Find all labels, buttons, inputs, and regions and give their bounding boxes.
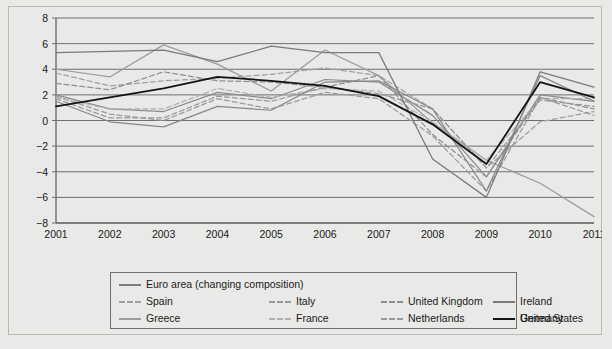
legend-swatch-dashed-line-icon [269,301,291,303]
legend-item[interactable]: Spain [117,296,267,307]
line-chart-svg: 86420−2−4−6−8 20012002200320042005200620… [8,6,602,255]
legend-item-label: Euro area (changing composition) [146,279,304,290]
x-tick-label: 2001 [44,228,68,240]
x-tick-label: 2005 [260,228,284,240]
legend-item-label: Greece [146,313,180,324]
y-tick-label: −6 [36,191,48,203]
plot-area: 86420−2−4−6−8 20012002200320042005200620… [8,6,602,255]
legend-swatch-solid-line-icon [493,301,515,303]
y-tick-label: 4 [42,63,48,75]
legend-item-label: France [296,313,329,324]
y-axis-tick-labels: 86420−2−4−6−8 [36,12,48,229]
legend-item[interactable]: Italy [267,296,379,307]
legend-swatch-solid-line-icon [493,318,515,320]
legend-swatch-dashed-line-icon [269,318,291,320]
legend-swatch-solid-line-icon [119,318,141,320]
legend-item[interactable]: Greece [117,313,267,324]
x-tick-label: 2003 [152,228,176,240]
legend-swatch-dashed-line-icon [381,318,403,320]
x-tick-label: 2011 [583,228,602,240]
legend-item-label: Ireland [520,296,552,307]
series-line-italy [56,92,594,191]
chart-legend: Euro area (changing composition) SpainIt… [110,272,517,329]
y-tick-label: −4 [36,166,48,178]
x-axis-tick-labels: 2001200220032004200520062007200820092010… [44,228,602,240]
legend-item[interactable]: France [267,313,379,324]
legend-item-label: United States [520,313,583,324]
gridlines [56,18,594,223]
legend-swatch-solid-line-icon [119,284,141,286]
legend-item-label: Netherlands [408,313,465,324]
x-tick-label: 2009 [475,228,499,240]
x-tick-label: 2004 [206,228,230,240]
legend-row: GreeceFranceNetherlandsGermanyUnited Sta… [117,310,510,327]
y-tick-label: 0 [42,115,48,127]
x-tick-label: 2002 [98,228,122,240]
legend-row: SpainItalyUnited KingdomIreland [117,293,510,310]
legend-item[interactable]: United Kingdom [379,296,491,307]
legend-item[interactable]: Euro area (changing composition) [117,279,267,290]
legend-swatch-dashed-line-icon [119,301,141,303]
legend-item[interactable]: Netherlands [379,313,491,324]
y-tick-label: −2 [36,140,48,152]
x-tick-label: 2010 [529,228,553,240]
legend-item-label: United Kingdom [408,296,483,307]
y-tick-label: 2 [42,89,48,101]
legend-item-label: Italy [296,296,315,307]
chart-screenshot: 86420−2−4−6−8 20012002200320042005200620… [0,0,612,349]
series-line-greece [56,45,594,217]
series-line-euro-area-changing-composition [56,80,594,177]
x-tick-label: 2007 [367,228,391,240]
series-line-netherlands [56,87,594,168]
y-tick-label: 8 [42,12,48,24]
legend-row: Euro area (changing composition) [117,276,510,293]
x-tick-label: 2008 [421,228,445,240]
legend-item-label: Spain [146,296,173,307]
data-series-lines [56,45,594,217]
legend-swatch-dashed-line-icon [381,301,403,303]
x-tick-label: 2006 [313,228,337,240]
y-tick-label: 6 [42,38,48,50]
